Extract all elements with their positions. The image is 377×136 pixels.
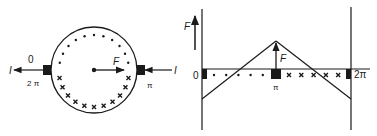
conductor-cross [312,73,316,77]
conductor-cross [58,76,62,80]
brush-two-pi [346,69,351,79]
brush-zero [202,69,207,79]
conductor-dot [249,74,251,76]
conductor-cross [299,73,303,77]
force-label-pi: F [280,53,287,64]
conductor-dot [127,62,129,64]
conductor-cross [123,85,127,89]
right-panel: F F 0 π 2π [184,7,370,130]
x-label-two-pi: 2π [354,69,367,80]
brush-pi [271,69,281,79]
conductor-cross [73,100,77,104]
conductor-dot [118,45,120,47]
force-axis-label: F [184,21,191,32]
conductor-dot [124,53,126,55]
conductor-dot [59,62,61,64]
diagram: I I 0 2 π π F F F 0 π 2π [0,0,377,136]
conductor-cross [111,100,115,104]
conductor-dot [93,34,95,36]
force-ramp-falling [276,41,351,99]
conductor-cross [287,73,291,77]
force-label-center: F [113,56,120,67]
conductor-cross [92,105,96,109]
x-label-pi: π [273,83,279,92]
conductor-dot [83,35,85,37]
conductor-dot [62,53,64,55]
brush-right [137,65,145,75]
conductor-dot [75,39,77,41]
left-panel: I I 0 2 π π F [9,27,177,113]
conductor-dot [111,39,113,41]
conductor-cross [102,104,106,108]
angle-label-two-pi: 2 π [27,79,40,88]
conductor-cross [61,85,65,89]
conductor-cross [336,73,340,77]
current-label-left: I [9,65,12,76]
conductor-cross [82,104,86,108]
force-ramp-rising [202,41,276,99]
angle-label-pi: π [147,81,153,90]
brush-left [43,65,51,75]
conductor-cross [324,73,328,77]
angle-label-zero: 0 [28,54,34,65]
conductor-dot [237,74,239,76]
conductor-dot [262,74,264,76]
conductor-cross [118,93,122,97]
conductor-cross [66,93,70,97]
conductor-dot [102,35,104,37]
conductor-dot [225,74,227,76]
conductor-cross [126,76,130,80]
conductor-dot [67,45,69,47]
current-label-right: I [174,65,177,76]
conductor-dot [213,74,215,76]
x-label-zero: 0 [193,70,199,81]
